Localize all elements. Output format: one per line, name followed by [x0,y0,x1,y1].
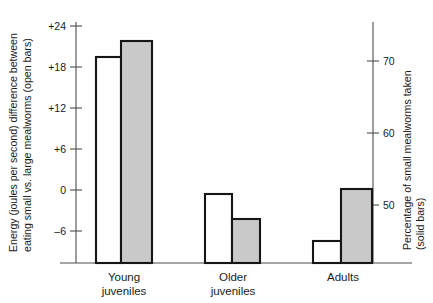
left-axis-title-line1: Energy (joules per second) difference be… [7,33,19,252]
left-tick-label-6: +6 [54,143,66,155]
left-tick-label-0: 0 [60,184,66,196]
bar-open-young-juveniles [96,57,121,263]
category-label-older-juveniles-line2: juveniles [210,285,256,297]
bar-open-adults [313,241,341,263]
right-tick-label-60: 60 [383,127,395,139]
left-tick-label-12: +12 [48,102,66,114]
bar-solid-young-juveniles [121,41,152,263]
left-tick-label-18: +18 [48,61,66,73]
category-label-young-juveniles-line2: juveniles [101,285,147,297]
right-axis-title-line2: (solid bars) [414,198,426,250]
bar-open-older-juveniles [205,194,232,263]
left-axis-title-line2: eating small vs. large mealworms (open b… [21,38,33,252]
bar-solid-adults [341,189,372,263]
category-label-adults: Adults [327,271,359,283]
left-tick-label-24: +24 [48,20,66,32]
right-axis-title-line1: Percentage of small mealworms taken [401,70,413,250]
category-label-older-juveniles-line1: Older [219,271,247,283]
right-tick-label-70: 70 [383,55,395,67]
bar-solid-older-juveniles [232,219,260,263]
category-label-young-juveniles-line1: Young [108,271,140,283]
left-tick-label-minus6: –6 [54,225,66,237]
bar-chart: +24 +18 +12 +6 0 –6 70 60 50 Young juven… [0,0,433,303]
right-tick-label-50: 50 [383,199,395,211]
chart-container: +24 +18 +12 +6 0 –6 70 60 50 Young juven… [0,0,433,303]
